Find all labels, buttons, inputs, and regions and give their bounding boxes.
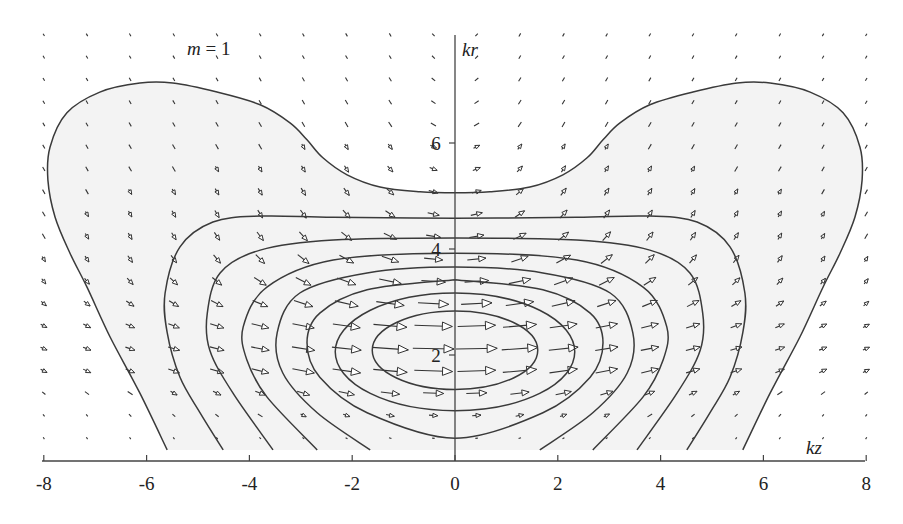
- arrow-tick: [866, 437, 867, 439]
- x-tick-label: 8: [861, 473, 871, 494]
- vector-arrow: [474, 101, 478, 104]
- vector-arrow: [41, 301, 46, 306]
- vector-arrow: [43, 145, 45, 149]
- vector-arrow: [259, 78, 261, 82]
- vector-arrow: [43, 78, 45, 81]
- x-tick-label: -2: [344, 473, 360, 494]
- arrow-tick: [474, 101, 478, 104]
- arrow-tick: [821, 392, 825, 395]
- arrow-tick: [173, 78, 175, 81]
- arrow-tick: [389, 100, 392, 104]
- arrow-tick: [86, 414, 88, 416]
- vector-arrow: [303, 33, 305, 36]
- arrow-head: [822, 347, 827, 351]
- vector-arrow: [42, 279, 46, 284]
- arrow-tick: [865, 123, 867, 126]
- vector-arrow: [129, 414, 131, 416]
- vector-arrow: [42, 212, 45, 217]
- vector-arrow: [345, 78, 347, 82]
- arrow-tick: [606, 55, 608, 58]
- vector-arrow: [649, 78, 651, 82]
- vector-arrow: [820, 301, 826, 306]
- arrow-tick: [259, 100, 261, 104]
- vector-arrow: [86, 56, 88, 59]
- arrow-tick: [43, 437, 44, 439]
- vector-arrow: [519, 55, 521, 58]
- mode-annotation: m = 1: [187, 38, 230, 59]
- vector-arrow: [302, 78, 304, 82]
- arrow-tick: [865, 414, 867, 416]
- y-axis-title: kr: [462, 39, 478, 60]
- arrow-tick: [865, 212, 868, 217]
- arrow-tick: [303, 33, 305, 36]
- x-tick-label: 6: [759, 473, 769, 494]
- vector-arrow: [43, 101, 45, 104]
- vector-arrow: [863, 347, 870, 351]
- vector-arrow: [519, 438, 521, 439]
- arrow-head: [822, 324, 827, 328]
- arrow-tick: [173, 56, 175, 59]
- arrow-head: [561, 166, 565, 171]
- vector-arrow: [42, 392, 45, 395]
- arrow-tick: [431, 123, 436, 126]
- arrow-tick: [649, 33, 651, 36]
- vector-arrow: [389, 55, 391, 58]
- arrow-head: [86, 347, 91, 351]
- vector-arrow: [864, 256, 868, 261]
- vector-arrow: [129, 78, 131, 81]
- vector-arrow: [605, 100, 607, 104]
- annotation-value: 1: [221, 38, 231, 59]
- arrow-head: [86, 369, 91, 373]
- vector-arrow: [562, 100, 564, 104]
- y-tick-label: 6: [431, 133, 441, 154]
- vector-arrow: [83, 369, 91, 373]
- vector-arrow: [779, 437, 780, 439]
- arrow-tick: [345, 78, 347, 82]
- arrow-tick: [562, 55, 564, 58]
- vector-arrow: [475, 78, 478, 81]
- arrow-tick: [389, 33, 391, 36]
- arrow-head: [42, 347, 47, 351]
- vector-arrow: [474, 145, 480, 149]
- vector-arrow: [519, 33, 521, 36]
- vector-arrow: [389, 438, 391, 439]
- vector-arrow: [41, 347, 48, 351]
- arrow-tick: [822, 437, 823, 439]
- arrow-tick: [129, 414, 131, 416]
- arrow-tick: [302, 100, 304, 104]
- arrow-tick: [822, 34, 823, 37]
- vector-arrow: [561, 166, 565, 172]
- vector-arrow: [865, 392, 868, 395]
- vector-arrow: [822, 437, 823, 439]
- arrow-head: [42, 369, 47, 373]
- arrow-tick: [606, 33, 608, 36]
- arrow-tick: [692, 56, 694, 59]
- vector-arrow: [866, 437, 867, 439]
- arrow-head: [344, 167, 348, 172]
- arrow-tick: [130, 437, 131, 439]
- arrow-tick: [735, 56, 737, 59]
- arrow-tick: [43, 78, 45, 81]
- arrow-tick: [389, 77, 391, 81]
- arrow-tick: [475, 78, 478, 81]
- arrow-tick: [562, 100, 564, 104]
- vector-arrow: [173, 34, 175, 37]
- arrow-tick: [865, 145, 867, 149]
- arrow-tick: [865, 392, 868, 395]
- arrow-tick: [43, 414, 45, 416]
- vector-arrow: [821, 392, 825, 395]
- vector-arrow: [346, 33, 348, 36]
- y-tick-label: 2: [431, 345, 441, 366]
- arrow-tick: [432, 56, 435, 59]
- arrow-tick: [649, 100, 651, 104]
- arrow-tick: [346, 55, 348, 58]
- arrow-tick: [259, 33, 261, 36]
- arrow-tick: [43, 190, 45, 194]
- arrow-tick: [779, 414, 781, 416]
- x-axis-title: kz: [806, 437, 822, 458]
- arrow-tick: [779, 78, 781, 81]
- vector-arrow: [863, 369, 869, 373]
- vector-arrow: [128, 392, 133, 395]
- arrow-tick: [389, 122, 392, 127]
- vector-arrow: [473, 167, 480, 171]
